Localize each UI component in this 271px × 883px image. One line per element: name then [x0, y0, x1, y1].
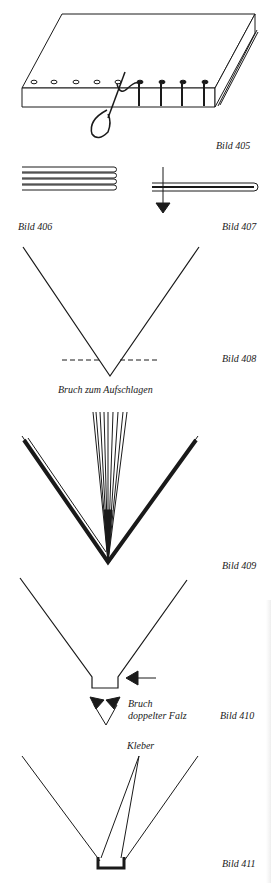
page-edge-shadow	[266, 600, 271, 883]
label-doppelter-falz: doppelter Falz	[128, 710, 187, 721]
label-kleber: Kleber	[127, 740, 154, 751]
label-bruch-zum-aufschlagen: Bruch zum Aufschlagen	[58, 384, 153, 395]
figure-406-stacked-sheets	[22, 167, 117, 190]
figure-410-double-fold	[20, 578, 187, 725]
figure-411-glue-channel	[22, 756, 198, 868]
label-bruch: Bruch	[128, 698, 152, 709]
figure-409-fanned-signatures	[22, 412, 198, 564]
caption-408: Bild 408	[222, 353, 256, 364]
figure-405-book-block	[22, 14, 258, 138]
figure-408-v-fold	[23, 247, 199, 376]
figure-407-folded-sheet	[152, 167, 258, 213]
caption-410: Bild 410	[220, 710, 254, 721]
caption-406: Bild 406	[18, 221, 52, 232]
caption-411: Bild 411	[222, 858, 255, 869]
caption-407: Bild 407	[222, 221, 256, 232]
caption-409: Bild 409	[222, 560, 256, 571]
caption-405: Bild 405	[216, 140, 250, 151]
